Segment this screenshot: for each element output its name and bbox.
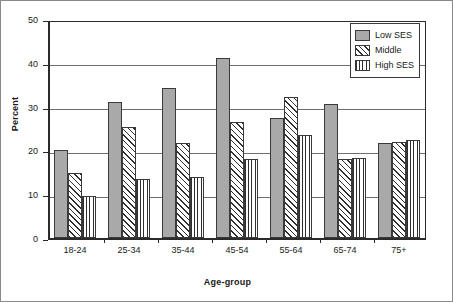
y-tick-label-0: 0	[0, 235, 38, 244]
bar-25-34-middle	[122, 127, 136, 238]
bar-35-44-middle	[176, 143, 190, 238]
x-tick-mark-45-54	[212, 238, 213, 243]
legend-label: Middle	[375, 45, 402, 56]
bar-55-64-low-ses	[270, 118, 284, 238]
legend-swatch-icon-diagonal-hatch	[355, 45, 370, 56]
x-tick-mark-35-44	[158, 238, 159, 243]
bar-65-74-high-ses	[352, 158, 366, 238]
chart-figure: Percent Age-group 01020304050 18-2425-34…	[0, 0, 453, 302]
legend-label: High SES	[375, 60, 414, 71]
bar-45-54-high-ses	[244, 159, 258, 238]
bar-25-34-low-ses	[108, 102, 122, 238]
gridline-30	[50, 109, 425, 110]
x-tick-mark-75+	[374, 238, 375, 243]
bar-18-24-middle	[68, 173, 82, 238]
legend-item-high-ses[interactable]: High SES	[355, 58, 414, 73]
legend-label: Low SES	[375, 30, 412, 41]
bar-25-34-high-ses	[136, 179, 150, 238]
bar-75+-high-ses	[406, 140, 420, 238]
bar-65-74-middle	[338, 159, 352, 238]
legend-swatch-icon-solid-gray	[355, 30, 370, 41]
bar-75+-low-ses	[378, 143, 392, 238]
x-tick-mark-25-34	[104, 238, 105, 243]
y-tick-label-40: 40	[0, 60, 38, 69]
y-tick-label-20: 20	[0, 147, 38, 156]
y-tick-label-30: 30	[0, 104, 38, 113]
legend-swatch-icon-vertical-lines	[355, 60, 370, 71]
x-tick-label-45-54: 45-54	[210, 245, 264, 255]
y-tick-label-50: 50	[0, 16, 38, 25]
x-axis-title: Age-group	[1, 277, 453, 287]
bar-55-64-middle	[284, 97, 298, 238]
bar-45-54-low-ses	[216, 58, 230, 238]
y-tick-mark-0	[43, 240, 48, 241]
bar-55-64-high-ses	[298, 135, 312, 238]
bar-45-54-middle	[230, 122, 244, 238]
x-tick-label-55-64: 55-64	[264, 245, 318, 255]
x-tick-mark-65-74	[320, 238, 321, 243]
x-tick-label-25-34: 25-34	[102, 245, 156, 255]
bar-35-44-high-ses	[190, 177, 204, 238]
bar-35-44-low-ses	[162, 88, 176, 238]
bar-18-24-high-ses	[82, 196, 96, 238]
x-tick-mark-55-64	[266, 238, 267, 243]
y-tick-label-10: 10	[0, 191, 38, 200]
x-tick-label-18-24: 18-24	[48, 245, 102, 255]
legend-item-low-ses[interactable]: Low SES	[355, 28, 414, 43]
bar-18-24-low-ses	[54, 150, 68, 238]
chart-legend: Low SESMiddleHigh SES	[350, 23, 420, 78]
bar-75+-middle	[392, 142, 406, 238]
bar-65-74-low-ses	[324, 104, 338, 238]
y-axis-title: Percent	[10, 74, 20, 154]
legend-item-middle[interactable]: Middle	[355, 43, 414, 58]
x-tick-label-35-44: 35-44	[156, 245, 210, 255]
x-tick-label-75+: 75+	[372, 245, 426, 255]
x-tick-label-65-74: 65-74	[318, 245, 372, 255]
